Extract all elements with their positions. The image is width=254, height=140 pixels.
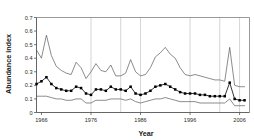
data-point-marker [189, 92, 192, 95]
data-point-marker [233, 98, 236, 101]
data-point-marker [164, 83, 167, 86]
data-point-marker [159, 84, 162, 87]
x-axis-title: Year [138, 129, 153, 138]
data-point-marker [100, 88, 103, 91]
data-point-marker [119, 88, 122, 91]
data-point-marker [238, 99, 241, 102]
data-point-marker [85, 92, 88, 95]
data-point-marker [110, 85, 113, 88]
data-point-marker [223, 95, 226, 98]
data-point-marker [35, 83, 38, 86]
data-point-marker [80, 87, 83, 90]
data-point-marker [115, 88, 118, 91]
data-point-marker [40, 80, 43, 83]
y-tick-label-5: 0.5 [25, 42, 33, 48]
abundance-index-line-chart: 00.10.20.30.40.50.60.7 19661976198619962… [0, 0, 254, 140]
y-tick-label-4: 0.4 [25, 55, 33, 61]
data-point-marker [75, 85, 78, 88]
data-point-marker [70, 90, 73, 93]
data-point-marker [60, 88, 63, 91]
y-tick-label-0: 0 [29, 110, 32, 116]
chart-figure: 00.10.20.30.40.50.60.7 19661976198619962… [0, 0, 254, 140]
data-point-marker [50, 83, 53, 86]
data-point-marker [55, 87, 58, 90]
y-tick-label-3: 0.3 [25, 69, 33, 75]
data-point-marker [243, 99, 246, 102]
data-point-marker [90, 94, 93, 97]
x-tick-label-3: 1996 [184, 117, 196, 123]
data-point-marker [199, 94, 202, 97]
data-point-marker [179, 91, 182, 94]
data-point-marker [214, 95, 217, 98]
data-point-marker [134, 92, 137, 95]
data-point-marker [184, 92, 187, 95]
data-point-marker [219, 95, 222, 98]
data-point-marker [194, 92, 197, 95]
data-point-marker [228, 81, 231, 84]
data-point-marker [65, 90, 68, 93]
data-point-marker [204, 94, 207, 97]
data-point-marker [154, 85, 157, 88]
x-tick-label-0: 1966 [35, 117, 47, 123]
data-point-marker [124, 90, 127, 93]
x-tick-label-1: 1976 [85, 117, 97, 123]
data-point-marker [144, 92, 147, 95]
data-point-marker [169, 85, 172, 88]
data-point-marker [209, 95, 212, 98]
data-point-marker [105, 90, 108, 93]
x-tick-label-4: 2006 [233, 117, 245, 123]
y-axis-title: Abundance index [4, 34, 13, 94]
y-tick-label-7: 0.7 [25, 15, 33, 21]
data-point-marker [149, 90, 152, 93]
data-point-marker [45, 76, 48, 79]
y-tick-label-1: 0.1 [25, 96, 33, 102]
data-point-marker [174, 88, 177, 91]
data-point-marker [139, 94, 142, 97]
y-tick-label-6: 0.6 [25, 28, 33, 34]
y-tick-label-2: 0.2 [25, 82, 33, 88]
data-point-marker [95, 88, 98, 91]
data-point-marker [129, 85, 132, 88]
x-tick-label-2: 1986 [134, 117, 146, 123]
